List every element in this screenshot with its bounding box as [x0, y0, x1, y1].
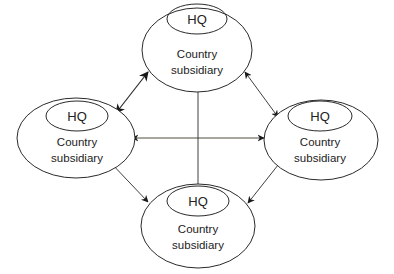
country-label: Country: [177, 48, 218, 60]
country-label: Country: [300, 136, 341, 148]
subsidiary-label: subsidiary: [51, 152, 103, 164]
edge-top-left: [116, 72, 148, 113]
hq-label: HQ: [188, 194, 208, 209]
country-label: Country: [178, 223, 219, 235]
subsidiary-label: subsidiary: [294, 152, 346, 164]
node-bottom: HQ Country subsidiary: [141, 184, 255, 268]
node-left: HQ Country subsidiary: [17, 98, 135, 178]
subsidiary-label: subsidiary: [171, 64, 223, 76]
node-right: HQ Country subsidiary: [264, 100, 378, 180]
edge-top-right: [245, 72, 278, 117]
edge-right-bottom: [248, 160, 282, 203]
country-label: Country: [57, 136, 98, 148]
subsidiary-label: subsidiary: [172, 239, 224, 251]
hq-label: HQ: [67, 109, 87, 124]
hq-label: HQ: [187, 12, 207, 27]
network-diagram: HQ Country subsidiary HQ Country subsidi…: [0, 0, 394, 274]
hq-label: HQ: [310, 109, 330, 124]
node-top: HQ Country subsidiary: [142, 4, 252, 92]
